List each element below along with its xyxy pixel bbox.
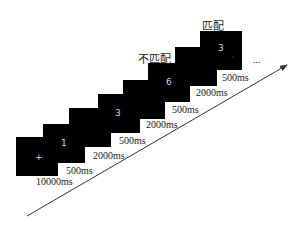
stimulus-digit: 3 <box>218 43 224 53</box>
duration-label: 2000ms <box>196 87 228 98</box>
duration-label: 500ms <box>172 104 199 115</box>
stimulus-digit: 1 <box>61 138 67 148</box>
stimulus-digit: 6 <box>166 77 172 87</box>
duration-label: 10000ms <box>36 176 73 187</box>
duration-label: 2000ms <box>146 119 178 130</box>
frame-8: 3 · <box>200 31 242 70</box>
continuation-ellipsis: ... <box>253 54 261 65</box>
duration-label: 500ms <box>119 135 146 146</box>
duration-label: 500ms <box>222 72 249 83</box>
duration-label: 2000ms <box>93 150 125 161</box>
fixation-cross: + <box>35 152 43 162</box>
match-label: 匹配 <box>202 17 224 33</box>
stimulus-digit: 3 <box>115 108 121 118</box>
duration-label: 500ms <box>66 165 93 176</box>
dot-marker: · <box>232 53 234 60</box>
mismatch-label: 不匹配 <box>138 50 171 66</box>
